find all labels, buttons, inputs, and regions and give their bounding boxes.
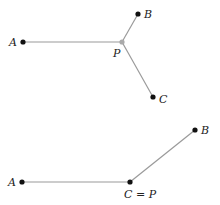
label-b: B [143, 8, 152, 21]
label-a: A [8, 36, 17, 49]
segment-bp [122, 14, 138, 42]
label-p: P [112, 47, 121, 60]
segment-cp [122, 42, 153, 97]
label-b: B [200, 124, 209, 137]
diagram-canvas: A B P C A B C = P [0, 0, 220, 205]
label-c: C [159, 93, 168, 106]
diagram-bottom: A B C = P [7, 124, 209, 201]
point-a [19, 179, 24, 184]
point-c [150, 94, 155, 99]
label-c-equals-p: C = P [124, 188, 157, 201]
diagram-top: A B P C [8, 8, 168, 106]
point-b [135, 11, 140, 16]
point-b [192, 127, 197, 132]
label-a: A [7, 176, 16, 189]
point-p [119, 39, 124, 44]
point-a [20, 39, 25, 44]
segment-b-cp [130, 130, 195, 182]
point-c-equals-p [127, 179, 132, 184]
